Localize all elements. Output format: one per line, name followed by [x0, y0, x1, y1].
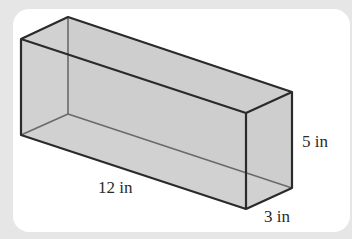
height-label: 5 in — [302, 132, 328, 152]
length-label: 12 in — [98, 178, 132, 198]
width-label: 3 in — [264, 207, 290, 227]
rectangular-prism-diagram — [0, 0, 352, 239]
